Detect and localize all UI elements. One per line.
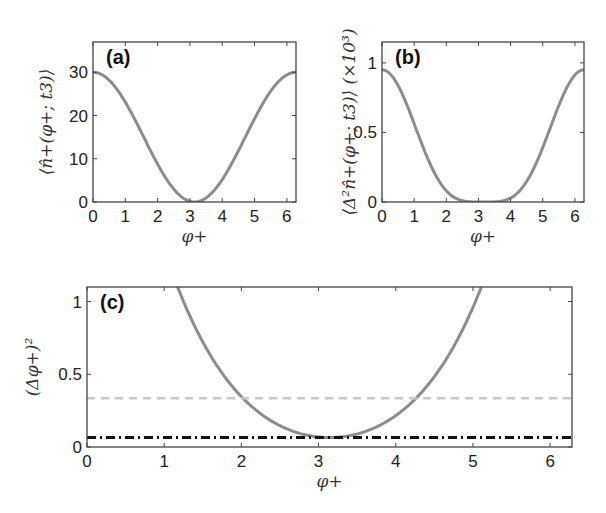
y-tick-label: 1 [368, 54, 377, 73]
x-tick-label: 1 [121, 207, 130, 226]
x-tick-label: 5 [538, 207, 547, 226]
x-tick-label: 5 [250, 207, 259, 226]
x-tick-label: 2 [442, 207, 451, 226]
x-tick-label: 1 [159, 452, 168, 471]
x-tick-label: 0 [88, 207, 97, 226]
x-tick-label: 6 [282, 207, 291, 226]
panel-a: 01234560102030(a)φ+⟨n̂+(φ+; t3)⟩ [36, 42, 296, 246]
x-tick-label: 5 [468, 452, 477, 471]
y-tick-label: 0 [73, 438, 82, 457]
y-tick-label: 10 [69, 150, 88, 169]
panel-label: (b) [395, 46, 421, 68]
x-tick-label: 6 [545, 452, 554, 471]
series-variance [382, 70, 584, 202]
x-tick-label: 2 [153, 207, 162, 226]
x-tick-label: 0 [377, 207, 386, 226]
panel-label: (a) [106, 46, 130, 68]
panel-b: 012345600.51(b)φ+⟨Δ²n̂+(φ+; t3)⟩ (×10³) [339, 28, 584, 246]
y-tick-label: 30 [69, 63, 88, 82]
y-tick-label: 20 [69, 107, 88, 126]
y-tick-label: 0 [368, 193, 377, 212]
x-axis-label: φ+ [316, 471, 342, 491]
y-tick-label: 0.5 [58, 365, 82, 384]
y-axis-label: ⟨n̂+(φ+; t3)⟩ [36, 69, 56, 176]
x-axis-label: φ+ [181, 226, 207, 246]
x-tick-label: 4 [506, 207, 515, 226]
figure: 01234560102030(a)φ+⟨n̂+(φ+; t3)⟩01234560… [0, 0, 606, 513]
series-n_plus [93, 72, 296, 202]
x-axis-label: φ+ [470, 226, 496, 246]
panel-label: (c) [100, 291, 124, 313]
x-tick-label: 6 [570, 207, 579, 226]
x-tick-label: 1 [409, 207, 418, 226]
x-tick-label: 2 [237, 452, 246, 471]
y-tick-label: 1 [73, 293, 82, 312]
y-axis-label: (Δφ+)² [22, 338, 42, 397]
x-tick-label: 3 [314, 452, 323, 471]
x-tick-label: 4 [217, 207, 226, 226]
axes-box [87, 287, 572, 447]
x-tick-label: 3 [474, 207, 483, 226]
x-tick-label: 4 [391, 452, 400, 471]
x-tick-label: 0 [82, 452, 91, 471]
x-tick-label: 3 [185, 207, 194, 226]
y-tick-label: 0 [79, 193, 88, 212]
y-axis-label: ⟨Δ²n̂+(φ+; t3)⟩ (×10³) [339, 28, 359, 215]
